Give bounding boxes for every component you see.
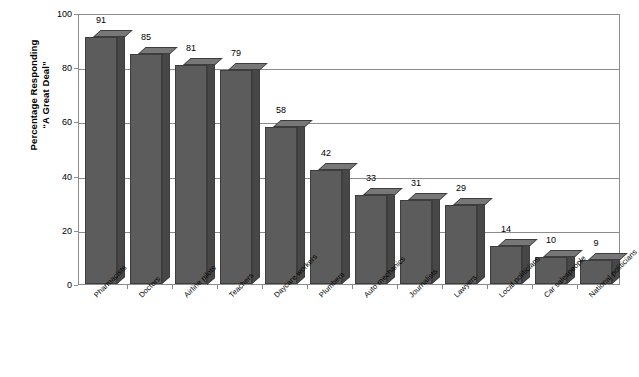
- bar[interactable]: [310, 162, 350, 284]
- y-axis-tickmark: [74, 68, 78, 69]
- x-axis-tickmark: [487, 284, 488, 289]
- y-axis-tick-label: 100: [50, 10, 72, 19]
- bar-value-label: 42: [304, 149, 348, 158]
- bar-top-face: [363, 188, 403, 195]
- bar-top-face: [453, 198, 493, 205]
- bar-value-label: 81: [169, 44, 213, 53]
- y-axis-tickmark: [74, 285, 78, 286]
- bar-value-label: 91: [79, 16, 123, 25]
- bar[interactable]: [175, 57, 215, 285]
- bar-top-face: [318, 163, 358, 170]
- bar[interactable]: [130, 46, 170, 284]
- x-axis-tickmark: [172, 284, 173, 289]
- bar-top-face: [183, 58, 223, 65]
- bar-value-label: 79: [214, 49, 258, 58]
- bar[interactable]: [220, 62, 260, 284]
- bar-side-face: [162, 47, 170, 284]
- bar[interactable]: [85, 29, 125, 284]
- bar-value-label: 14: [484, 225, 528, 234]
- bar-front-face: [220, 70, 252, 284]
- bar-value-label: 85: [124, 33, 168, 42]
- bar-front-face: [355, 195, 387, 284]
- y-axis-tick-label: 20: [50, 227, 72, 236]
- x-axis-tickmark: [442, 284, 443, 289]
- y-axis-title-line-2: “A Great Deal”: [40, 0, 52, 195]
- x-axis-tickmark: [577, 284, 578, 289]
- y-axis-tick-label: 0: [50, 281, 72, 290]
- x-axis-tickmark: [262, 284, 263, 289]
- bar-side-face: [207, 58, 215, 284]
- bar-value-label: 58: [259, 106, 303, 115]
- bar-top-face: [543, 250, 583, 257]
- bar-front-face: [310, 170, 342, 284]
- bar-value-label: 33: [349, 174, 393, 183]
- y-axis-tick-label: 80: [50, 64, 72, 73]
- plot-area: 91858179584233312914109: [78, 14, 620, 285]
- bar-front-face: [85, 37, 117, 284]
- bar-top-face: [408, 193, 448, 200]
- x-axis-tickmark: [352, 284, 353, 289]
- y-axis-tickmark: [74, 231, 78, 232]
- x-axis-tickmark: [307, 284, 308, 289]
- x-axis-tickmark: [532, 284, 533, 289]
- bar-front-face: [130, 54, 162, 284]
- y-axis-title: Percentage Responding “A Great Deal”: [28, 0, 62, 195]
- bar-value-label: 29: [439, 184, 483, 193]
- y-axis-tick-label: 40: [50, 173, 72, 182]
- x-axis-tickmark: [397, 284, 398, 289]
- bar-front-face: [265, 127, 297, 284]
- bar-side-face: [252, 63, 260, 284]
- bar-side-face: [117, 30, 125, 284]
- y-axis-title-line-1: Percentage Responding: [28, 0, 40, 195]
- y-axis-tickmark: [74, 177, 78, 178]
- bar[interactable]: [445, 197, 485, 284]
- x-axis-tickmark: [127, 284, 128, 289]
- bar-front-face: [175, 65, 207, 285]
- bar-value-label: 10: [529, 236, 573, 245]
- x-axis-tickmark: [217, 284, 218, 289]
- bar-value-label: 9: [574, 239, 618, 248]
- bar-side-face: [477, 198, 485, 284]
- y-axis-tick-label: 60: [50, 118, 72, 127]
- bar[interactable]: [265, 119, 305, 284]
- bar-value-label: 31: [394, 179, 438, 188]
- y-axis-tickmark: [74, 122, 78, 123]
- y-axis-tickmark: [74, 14, 78, 15]
- bar-top-face: [273, 120, 313, 127]
